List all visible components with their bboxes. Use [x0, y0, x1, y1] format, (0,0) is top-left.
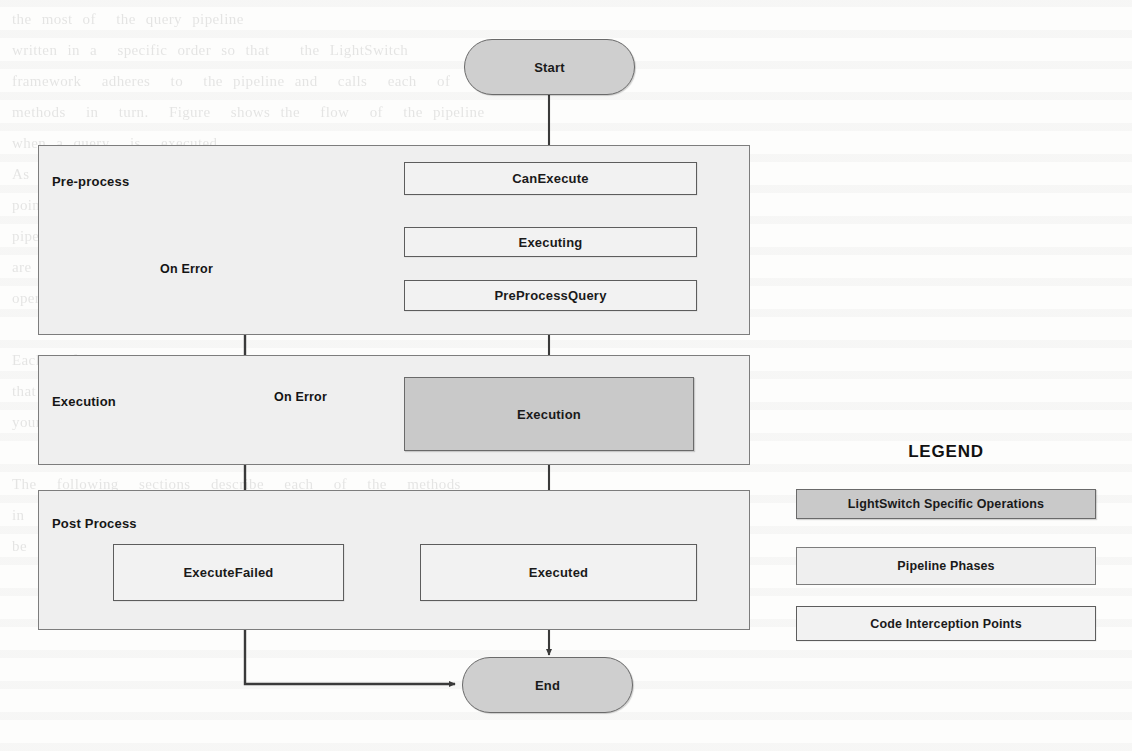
flowchart: Pre-process Execution Post Process Start… [0, 0, 1132, 751]
node-execute-failed[interactable]: ExecuteFailed [113, 544, 344, 601]
legend-title: LEGEND [796, 442, 1096, 462]
phase-label-pre-process: Pre-process [52, 174, 129, 189]
legend-item-code-interception-points: Code Interception Points [796, 606, 1096, 641]
phase-label-post-process: Post Process [52, 516, 137, 531]
legend-item-pipeline-phases: Pipeline Phases [796, 547, 1096, 585]
edge-label-on-error-execution: On Error [274, 390, 327, 404]
phase-label-execution: Execution [52, 394, 116, 409]
edge-label-on-error-pre-process: On Error [160, 262, 213, 276]
node-executed[interactable]: Executed [420, 544, 697, 601]
end-node[interactable]: End [462, 657, 633, 713]
node-execution-operation[interactable]: Execution [404, 377, 694, 451]
legend-item-lightswitch-specific-operations: LightSwitch Specific Operations [796, 489, 1096, 519]
start-node[interactable]: Start [464, 39, 635, 95]
node-can-execute[interactable]: CanExecute [404, 162, 697, 195]
node-pre-process-query[interactable]: PreProcessQuery [404, 280, 697, 311]
node-executing[interactable]: Executing [404, 227, 697, 257]
diagram-page: the most of the query pipeline written i… [0, 0, 1132, 751]
